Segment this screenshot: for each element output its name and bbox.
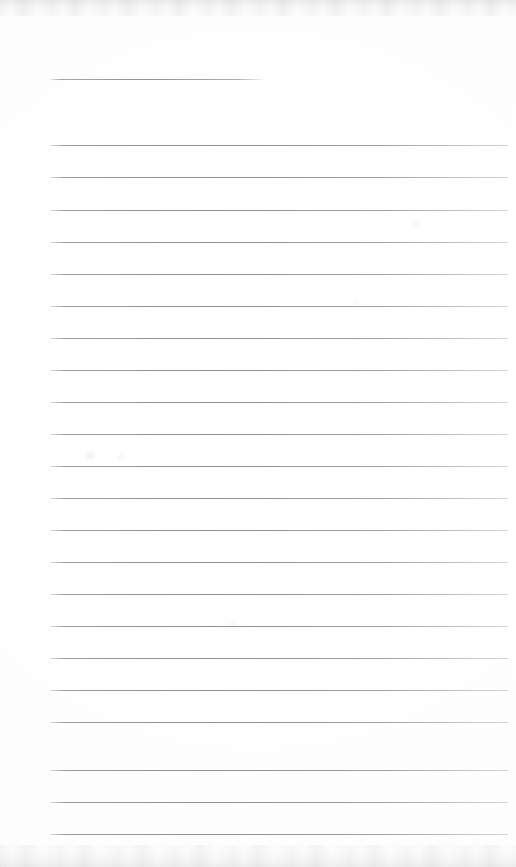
body-rule-8 <box>50 370 508 371</box>
body-rule-13 <box>50 530 508 531</box>
body-rule-1 <box>50 145 508 146</box>
body-rule-10 <box>50 434 508 435</box>
smudge-d <box>226 622 237 627</box>
paper-background <box>0 0 516 867</box>
body-rule-18 <box>50 690 508 691</box>
smudge-b <box>118 454 125 460</box>
scan-edge-artifact-top <box>0 0 516 16</box>
body-rule-11 <box>50 466 508 467</box>
body-rule-12 <box>50 498 508 499</box>
body-rule-9 <box>50 402 508 403</box>
body-rule-15 <box>50 594 508 595</box>
body-rule-14 <box>50 562 508 563</box>
body-rule-2 <box>50 177 508 178</box>
smudge-e <box>352 300 360 304</box>
body-rule-21 <box>50 802 508 803</box>
body-rule-7 <box>50 338 508 339</box>
body-rule-16 <box>50 626 508 627</box>
body-rule-3 <box>50 210 508 211</box>
body-rule-4 <box>50 242 508 243</box>
body-rule-20 <box>50 770 508 771</box>
body-rule-17 <box>50 658 508 659</box>
header-rule <box>50 79 263 80</box>
body-rule-22 <box>50 834 508 835</box>
scanned-page <box>0 0 516 867</box>
body-rule-5 <box>50 274 508 275</box>
scan-edge-artifact-bottom <box>0 845 516 867</box>
smudge-c <box>413 222 419 227</box>
body-rule-6 <box>50 306 508 307</box>
body-rule-19 <box>50 722 508 723</box>
smudge-a <box>86 452 95 459</box>
